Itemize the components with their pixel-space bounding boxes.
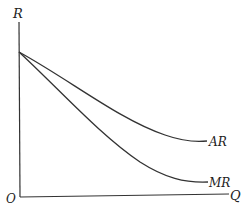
revenue-curves-diagram: R Q O AR MR	[0, 0, 248, 215]
origin-label: O	[6, 192, 16, 206]
mr-label: MR	[208, 176, 230, 190]
ar-curve	[19, 52, 207, 141]
y-axis	[19, 22, 20, 197]
ar-label: AR	[208, 135, 227, 149]
x-axis	[20, 194, 229, 197]
y-axis-label: R	[12, 6, 23, 21]
mr-curve	[19, 52, 208, 182]
x-axis-label: Q	[230, 188, 241, 203]
